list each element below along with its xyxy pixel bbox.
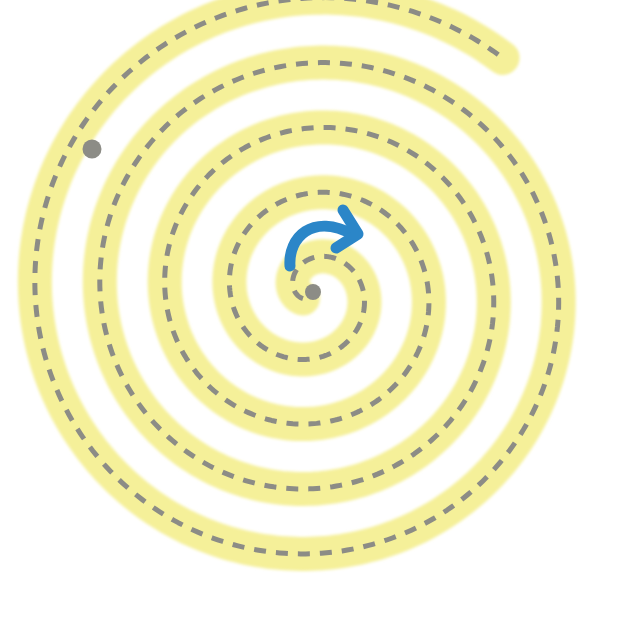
spiral-maze-canvas bbox=[0, 0, 628, 627]
start-dot-marker bbox=[83, 140, 102, 159]
spiral-maze-graphic bbox=[0, 0, 628, 627]
goal-dot-marker bbox=[305, 284, 321, 300]
